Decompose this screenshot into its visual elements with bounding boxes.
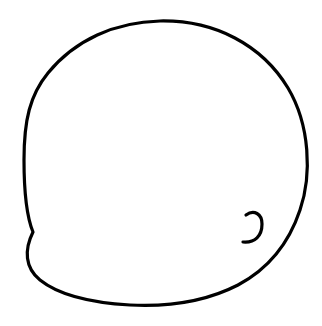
blob-outline bbox=[24, 21, 307, 305]
line-drawing bbox=[0, 0, 322, 326]
hook-curl bbox=[243, 212, 262, 242]
drawing-svg bbox=[0, 0, 322, 326]
